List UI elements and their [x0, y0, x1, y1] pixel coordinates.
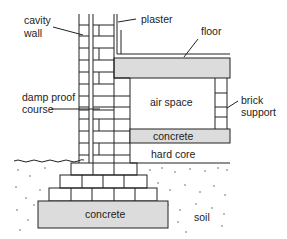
label-soil: soil [194, 211, 210, 223]
plaster-leader [118, 19, 136, 22]
label-brick-support-2: support [241, 106, 276, 118]
label-cavity-wall-1: cavity [24, 14, 52, 26]
label-floor: floor [201, 25, 222, 37]
label-cavity-wall-2: wall [23, 27, 42, 39]
brick-support [215, 78, 227, 129]
label-concrete-slab: concrete [153, 130, 193, 142]
outer-leaf [79, 14, 89, 163]
label-hard-core: hard core [151, 148, 196, 160]
label-damp-proof-1: damp proof [22, 91, 75, 103]
label-concrete-footing: concrete [85, 208, 125, 220]
label-damp-proof-2: course [22, 103, 54, 115]
diagram-canvas: cavity wall plaster floor damp proof cou… [0, 0, 287, 239]
label-air-space: air space [150, 96, 193, 108]
floor-slab [114, 58, 230, 78]
stepped-footing [49, 163, 157, 201]
label-brick-support-1: brick [241, 94, 264, 106]
ground-line [14, 160, 84, 162]
label-plaster: plaster [141, 13, 173, 25]
cavity-wall-diagram: cavity wall plaster floor damp proof cou… [0, 0, 287, 239]
brick-support-leader [227, 101, 238, 108]
inner-leaf [93, 14, 130, 163]
